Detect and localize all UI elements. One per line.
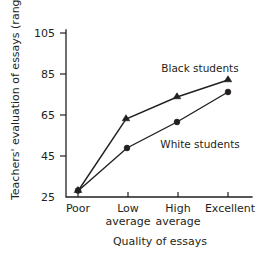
- marker-white-low-average: [124, 145, 130, 151]
- series-annotation-white-students: White students: [160, 138, 239, 150]
- marker-white-poor: [75, 188, 81, 194]
- line-chart-figure: Teachers' evaluation of essays (range 15…: [0, 0, 276, 262]
- marker-white-high-average: [174, 119, 180, 125]
- chart-canvas: Teachers' evaluation of essays (range 15…: [0, 0, 276, 262]
- x-tick-label-excellent: Excellent: [205, 202, 256, 215]
- y-tick-label-85: 85: [41, 68, 55, 81]
- y-tick-label-105: 105: [34, 27, 55, 40]
- x-tick-label-high: High: [165, 202, 190, 215]
- y-axis-title: Teachers' evaluation of essays (range 15…: [9, 0, 22, 201]
- x-tick-label-low: Low: [117, 202, 139, 215]
- y-tick-label-65: 65: [41, 109, 55, 122]
- x-tick-label-low-average: average: [105, 215, 150, 228]
- axis-spines: [66, 30, 252, 197]
- x-tick-label-poor: Poor: [66, 202, 91, 215]
- marker-white-excellent: [225, 89, 231, 95]
- y-tick-label-25: 25: [41, 191, 55, 204]
- marker-black-excellent: [224, 76, 232, 82]
- x-axis-title: Quality of essays: [113, 235, 207, 248]
- series-line-black-students: [78, 80, 228, 191]
- y-tick-label-45: 45: [41, 150, 55, 163]
- x-tick-label-high-average: average: [155, 215, 200, 228]
- series-annotation-black-students: Black students: [161, 62, 238, 74]
